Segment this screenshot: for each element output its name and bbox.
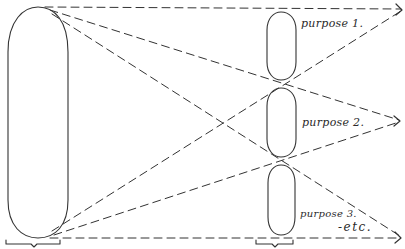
target-capsule-3 bbox=[268, 165, 295, 235]
target-capsule-1 bbox=[267, 12, 296, 80]
arrowhead-purpose-2 bbox=[394, 116, 400, 126]
purpose-1-label: purpose 1. bbox=[301, 17, 363, 30]
source-bracket bbox=[6, 240, 60, 247]
diagram-canvas: purpose 1. purpose 2. purpose 3. -etc. bbox=[0, 0, 405, 249]
target-capsule-2 bbox=[267, 88, 296, 157]
etc-label: -etc. bbox=[338, 220, 372, 234]
purpose-3-label: purpose 3. bbox=[300, 208, 357, 219]
target-bracket bbox=[256, 240, 293, 247]
purpose-2-label: purpose 2. bbox=[302, 116, 364, 129]
source-capsule bbox=[8, 7, 68, 238]
connector-top-to-purpose-1 bbox=[45, 7, 401, 9]
